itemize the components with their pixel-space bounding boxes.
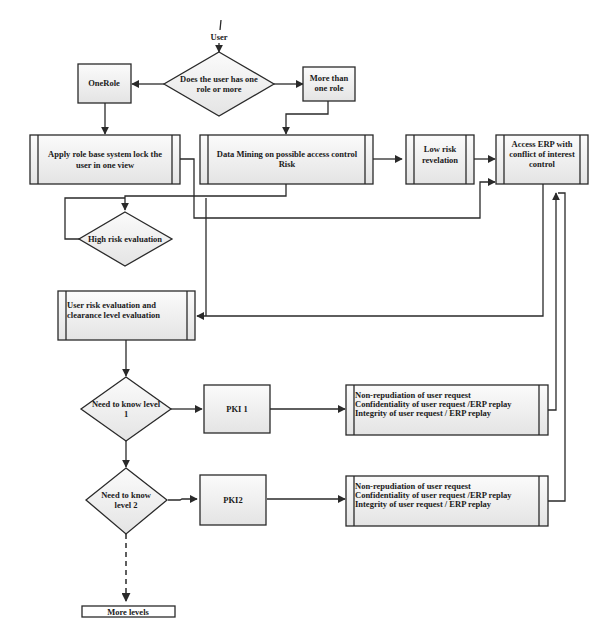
high-risk-label: High risk evaluation [88,234,162,244]
edge-level2-to-pki2 [168,499,197,500]
process-apply-role-lock[interactable]: Apply role base system lock the user in … [30,135,180,184]
user-risk-eval-line2: clearance level evaluation [67,310,160,320]
node-more-levels[interactable]: More levels [82,606,175,617]
node-pki2[interactable]: PKI2 [200,475,266,525]
node-pki1[interactable]: PKI 1 [204,385,270,433]
edge-start [220,20,221,30]
apply-role-lock-line2: user in one view [76,160,135,170]
need-level2-line2: level 2 [115,500,138,510]
access-erp-line2: conflict of interest [509,149,575,159]
decision-roles-line2: role or more [197,84,242,94]
decision-roles[interactable]: Does the user has one role or more [164,52,274,116]
access-erp-line1: Access ERP with [512,139,573,149]
security-2-line3: Integrity of user request / ERP replay [355,499,492,509]
decision-roles-line1: Does the user has one [180,74,258,84]
process-user-risk-eval[interactable]: User risk evaluation and clearance level… [58,291,195,340]
process-security-2[interactable]: Non-repudiation of user request Confiden… [346,476,548,526]
need-level1-line2: 1 [124,409,128,419]
security-1-line3: Integrity of user request / ERP replay [355,408,492,418]
data-mining-line2: Risk [279,159,296,169]
more-roles-line2: one role [315,83,344,93]
edge-access-to-userrisk [197,184,543,316]
one-role-label: OneRole [88,78,120,88]
flowchart-diagram: User Does the user has one role or more … [0,0,610,641]
apply-role-lock-line1: Apply role base system lock the [48,149,162,159]
pki2-label: PKI2 [223,495,242,505]
more-levels-label: More levels [107,607,149,617]
decision-need-level1[interactable]: Need to know level 1 [81,377,171,441]
node-more-roles[interactable]: More than one role [303,67,355,101]
process-low-risk[interactable]: Low risk revelation [406,135,474,184]
more-roles-line1: More than [310,73,349,83]
node-one-role[interactable]: OneRole [78,64,131,103]
low-risk-line2: revelation [422,155,458,165]
decision-high-risk[interactable]: High risk evaluation [79,212,172,266]
pki1-label: PKI 1 [226,404,248,414]
need-level2-line1: Need to know [101,490,151,500]
need-level1-line1: Need to know level [92,399,161,409]
data-mining-line1: Data Mining on possible access control [217,149,358,159]
low-risk-line1: Low risk [424,144,457,154]
process-data-mining[interactable]: Data Mining on possible access control R… [200,135,373,184]
process-security-1[interactable]: Non-repudiation of user request Confiden… [346,385,548,435]
process-access-erp[interactable]: Access ERP with conflict of interest con… [496,135,588,184]
start-label: User [211,32,228,42]
decision-need-level2[interactable]: Need to know level 2 [86,468,167,534]
edge-security1-to-access [548,193,556,410]
edge-moreroles-to-datamining [286,101,328,134]
access-erp-line3: control [529,159,555,169]
user-risk-eval-line1: User risk evaluation and [67,300,156,310]
